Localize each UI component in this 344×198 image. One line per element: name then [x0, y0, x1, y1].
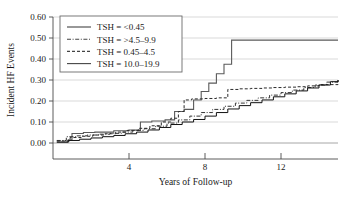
x-tick-label: 8: [203, 162, 208, 172]
legend-label-3: TSH = 10.0–19.9: [97, 59, 160, 69]
y-axis-title: Incident HF Events: [6, 43, 16, 117]
legend-label-0: TSH = <0.45: [97, 22, 145, 32]
y-tick-label: 0.00: [30, 138, 46, 148]
y-tick-label: 0.10: [30, 117, 46, 127]
x-axis-title: Years of Follow-up: [159, 177, 233, 187]
legend-label-2: TSH = 0.45–4.5: [97, 47, 156, 57]
y-tick-label: 0.30: [30, 75, 46, 85]
legend-label-1: TSH = >4.5–9.9: [97, 35, 156, 45]
series-line-1: [57, 80, 338, 140]
series-line-3: [57, 80, 338, 142]
x-tick-label: 4: [127, 162, 132, 172]
y-tick-label: 0.60: [30, 12, 46, 22]
x-tick-label: 12: [277, 162, 286, 172]
y-tick-label: 0.20: [30, 96, 46, 106]
y-tick-label: 0.50: [30, 33, 46, 43]
chart-svg: 0.000.100.200.300.400.500.604812Years of…: [0, 0, 344, 198]
y-tick-label: 0.40: [30, 54, 46, 64]
chart-figure: 0.000.100.200.300.400.500.604812Years of…: [0, 0, 344, 198]
